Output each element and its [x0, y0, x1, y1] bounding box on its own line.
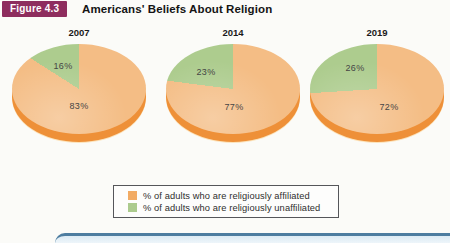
- legend-swatch-unaffiliated-icon: [128, 203, 137, 212]
- legend-label-affiliated: % of adults who are religiously affiliat…: [143, 191, 310, 201]
- legend-swatch-affiliated-icon: [128, 191, 137, 200]
- slice-label-affiliated: 77%: [225, 102, 244, 112]
- pie-year-label: 2019: [310, 27, 444, 38]
- slice-label-unaffiliated: 23%: [197, 67, 216, 77]
- legend-label-unaffiliated: % of adults who are religiously unaffili…: [143, 203, 320, 213]
- legend-item-affiliated: % of adults who are religiously affiliat…: [128, 191, 338, 201]
- legend: % of adults who are religiously affiliat…: [113, 185, 339, 218]
- pie-chart-2019: 2019 26% 72%: [310, 27, 444, 149]
- slice-label-affiliated: 83%: [70, 101, 89, 111]
- figure-title: Americans' Beliefs About Religion: [82, 3, 272, 15]
- pie-3d-2019: 26% 72%: [310, 44, 444, 143]
- pie-year-label: 2007: [12, 27, 146, 38]
- pie-surface: [310, 44, 444, 134]
- pie-surface: [12, 44, 146, 134]
- pie-chart-2007: 2007 16% 83%: [12, 27, 146, 149]
- figure-label-badge: Figure 4.3: [2, 1, 67, 17]
- pie-3d-2007: 16% 83%: [12, 44, 146, 143]
- slice-label-unaffiliated: 26%: [346, 63, 365, 73]
- pie-year-label: 2014: [166, 27, 300, 38]
- legend-item-unaffiliated: % of adults who are religiously unaffili…: [128, 203, 338, 213]
- slice-label-affiliated: 72%: [380, 102, 399, 112]
- next-section-box-edge: [55, 233, 450, 243]
- pie-surface: [166, 44, 300, 134]
- slice-label-unaffiliated: 16%: [54, 61, 73, 71]
- pie-3d-2014: 23% 77%: [166, 44, 300, 143]
- pie-chart-2014: 2014 23% 77%: [166, 27, 300, 149]
